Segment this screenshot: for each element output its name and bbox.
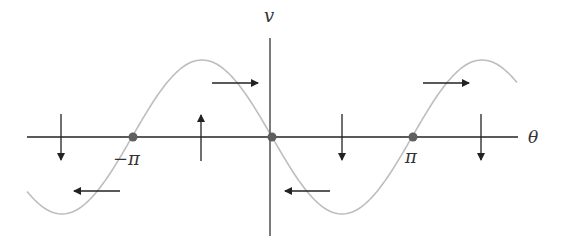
phase-portrait-diagram: v θ −π π <box>0 0 568 246</box>
fixed-point-pi <box>409 133 418 142</box>
tick-label-pi: π <box>404 146 418 167</box>
diagram-canvas: v θ −π π <box>0 0 568 246</box>
fixed-point-zero <box>268 133 277 142</box>
tick-label-neg-pi: −π <box>113 148 141 169</box>
fixed-point-neg-pi <box>129 133 138 142</box>
v-axis-label: v <box>264 5 274 26</box>
theta-axis-label: θ <box>528 127 538 147</box>
